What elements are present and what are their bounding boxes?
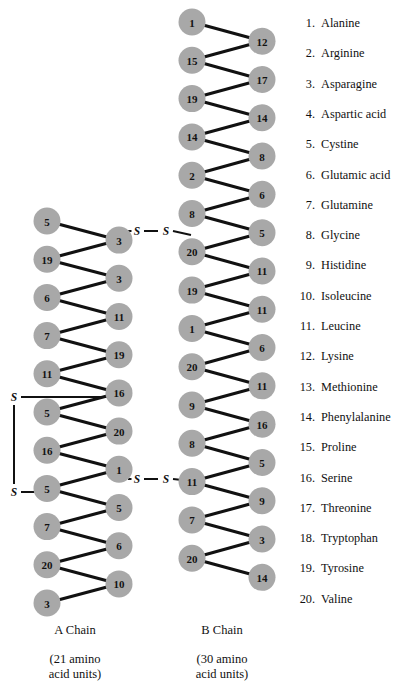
amino-acid-node-label: 6 xyxy=(259,342,265,354)
amino-acid-node-label: 14 xyxy=(257,112,269,124)
amino-acid-node: 1 xyxy=(179,315,206,342)
sulfur-atom-lower-b: S xyxy=(163,473,169,485)
legend-item: 19.Tyrosine xyxy=(296,558,403,572)
b-chain-peptide-bond xyxy=(203,465,251,478)
amino-acid-node-label: 11 xyxy=(42,368,52,380)
amino-acid-node: 19 xyxy=(179,85,206,112)
amino-acid-node-label: 8 xyxy=(259,151,265,163)
b-chain-peptide-bond xyxy=(203,217,251,230)
amino-acid-node: 12 xyxy=(249,28,276,55)
amino-acid-node: 7 xyxy=(34,513,61,540)
amino-acid-node: 16 xyxy=(249,411,276,438)
legend-item-number: 2. xyxy=(296,46,315,61)
legend-item-name: Isoleucine xyxy=(321,289,372,304)
amino-acid-node-label: 3 xyxy=(259,534,265,546)
amino-acid-node: 3 xyxy=(34,590,61,617)
b-chain-subline-2: acid units) xyxy=(196,667,248,681)
b-chain-peptide-bond xyxy=(203,255,251,268)
b-chain-peptide-bond xyxy=(203,331,251,344)
b-chain-subline-1: (30 amino xyxy=(196,652,247,666)
legend-item-number: 14. xyxy=(296,410,315,425)
amino-acid-node: 14 xyxy=(249,104,276,131)
amino-acid-node: 20 xyxy=(179,238,206,265)
sulfur-atom-lower-a: S xyxy=(134,473,140,485)
amino-acid-node-label: 9 xyxy=(189,400,195,412)
b-chain-peptide-bond xyxy=(203,427,251,440)
legend-item-number: 5. xyxy=(296,137,315,152)
amino-acid-node-label: 12 xyxy=(257,36,269,48)
amino-acid-node: 10 xyxy=(106,570,133,597)
amino-acid-node-label: 1 xyxy=(189,17,195,29)
b-chain-peptide-bond xyxy=(203,293,251,306)
b-chain-peptide-bond xyxy=(203,561,251,574)
sulfur-atom-upper-a: S xyxy=(134,225,140,237)
b-chain-sulfur-bond-upper xyxy=(173,231,191,235)
amino-acid-node-label: 11 xyxy=(257,304,267,316)
a-chain-peptide-bond xyxy=(58,568,108,581)
amino-acid-node: 14 xyxy=(249,564,276,591)
amino-acid-node-label: 11 xyxy=(257,265,267,277)
amino-acid-node: 1 xyxy=(179,9,206,36)
b-chain-peptide-bond xyxy=(203,408,251,421)
sulfur-atom-intrachain-top: S xyxy=(11,391,17,403)
b-chain-peptide-bond xyxy=(203,274,251,287)
a-chain-peptide-bond xyxy=(58,377,108,390)
amino-acid-node-label: 20 xyxy=(187,553,199,565)
legend-item-name: Methionine xyxy=(321,380,378,395)
legend-item-name: Tryptophan xyxy=(321,531,378,546)
amino-acid-node-label: 19 xyxy=(114,349,126,361)
amino-acid-node-label: 7 xyxy=(44,330,50,342)
amino-acid-node: 5 xyxy=(106,494,133,521)
legend-item: 20.Valine xyxy=(296,589,403,603)
amino-acid-node-label: 5 xyxy=(44,407,50,419)
legend-item-name: Tyrosine xyxy=(321,561,364,576)
amino-acid-node: 5 xyxy=(249,449,276,476)
amino-acid-node-label: 17 xyxy=(257,74,269,86)
legend-item-number: 15. xyxy=(296,440,315,455)
amino-acid-node: 8 xyxy=(179,200,206,227)
legend-item: 5.Cystine xyxy=(296,134,403,148)
amino-acid-node-label: 9 xyxy=(259,495,265,507)
insulin-diagram-panel: SSSSSS 531936117191116520161557620103112… xyxy=(0,0,290,692)
amino-acid-node-label: 20 xyxy=(114,426,126,438)
amino-acid-node: 6 xyxy=(249,334,276,361)
amino-acid-node-label: 14 xyxy=(187,131,199,143)
amino-acid-node-label: 14 xyxy=(257,572,269,584)
legend-item: 18.Tryptophan xyxy=(296,528,403,542)
amino-acid-node: 3 xyxy=(106,265,133,292)
b-chain-peptide-bond xyxy=(203,140,251,153)
legend-item-number: 16. xyxy=(296,471,315,486)
a-chain-peptide-bond xyxy=(58,415,108,428)
amino-acid-node: 11 xyxy=(249,257,276,284)
legend-item: 9.Histidine xyxy=(296,255,403,269)
sulfur-atom-intrachain-bottom: S xyxy=(11,486,17,498)
amino-acid-node-label: 10 xyxy=(114,578,126,590)
a-chain-peptide-bond xyxy=(58,472,108,485)
amino-acid-node-label: 19 xyxy=(187,285,199,297)
amino-acid-node: 7 xyxy=(179,506,206,533)
amino-acid-node-label: 2 xyxy=(189,170,195,182)
amino-acid-node: 6 xyxy=(106,532,133,559)
amino-acid-node-label: 7 xyxy=(189,514,195,526)
legend-item-name: Alanine xyxy=(321,16,360,31)
legend-item: 2.Arginine xyxy=(296,43,403,57)
legend-item: 14.Phenylalanine xyxy=(296,407,403,421)
amino-acid-node-label: 5 xyxy=(116,502,122,514)
legend-item: 13.Methionine xyxy=(296,377,403,391)
a-chain-peptide-bond xyxy=(58,300,108,313)
amino-acid-node: 20 xyxy=(179,353,206,380)
legend-item-name: Leucine xyxy=(321,319,361,334)
legend-item-number: 6. xyxy=(296,168,315,183)
amino-acid-node-label: 20 xyxy=(187,246,199,258)
amino-acid-node: 20 xyxy=(106,418,133,445)
legend-item: 15.Proline xyxy=(296,437,403,451)
amino-acid-node: 11 xyxy=(106,303,133,330)
legend-item-name: Serine xyxy=(321,471,352,486)
amino-acid-node-label: 19 xyxy=(187,93,199,105)
amino-acid-node-label: 1 xyxy=(189,323,195,335)
amino-acid-node: 6 xyxy=(249,181,276,208)
amino-acid-node-label: 16 xyxy=(257,419,269,431)
legend-item: 8.Glycine xyxy=(296,225,403,239)
legend-item: 10.Isoleucine xyxy=(296,286,403,300)
amino-acid-node: 2 xyxy=(179,162,206,189)
